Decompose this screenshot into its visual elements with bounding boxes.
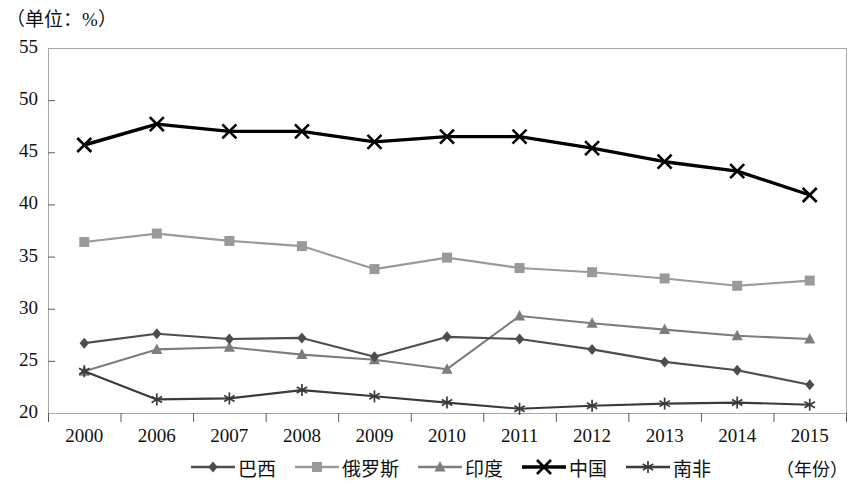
data-point-marker xyxy=(297,332,306,343)
y-axis-label-25: 25 xyxy=(2,349,38,371)
x-axis-label-2015: 2015 xyxy=(775,425,845,447)
legend-marker-triangle-icon xyxy=(417,456,463,478)
data-point-marker xyxy=(660,273,670,283)
legend-label: 中国 xyxy=(569,454,607,481)
legend-item-中国[interactable]: 中国 xyxy=(521,454,607,481)
legend-label: 俄罗斯 xyxy=(342,454,399,481)
x-axis-label-2000: 2000 xyxy=(49,425,119,447)
y-axis-label-55: 55 xyxy=(2,36,38,58)
legend-item-俄罗斯[interactable]: 俄罗斯 xyxy=(294,454,399,481)
y-axis-label-50: 50 xyxy=(2,88,38,110)
data-point-marker xyxy=(587,344,596,355)
legend-item-巴西[interactable]: 巴西 xyxy=(190,454,276,481)
data-point-marker xyxy=(733,365,742,376)
plot-frame xyxy=(49,49,847,414)
series-2 xyxy=(79,229,814,291)
data-point-marker xyxy=(514,310,525,321)
y-axis-label-20: 20 xyxy=(2,401,38,423)
legend-item-南非[interactable]: 南非 xyxy=(625,454,711,481)
legend-label: 印度 xyxy=(465,454,503,481)
legend-item-印度[interactable]: 印度 xyxy=(417,454,503,481)
data-point-marker xyxy=(369,264,379,274)
data-point-marker xyxy=(587,267,597,277)
y-axis-label-30: 30 xyxy=(2,297,38,319)
data-point-marker xyxy=(805,276,815,286)
legend-marker-cross-icon xyxy=(521,456,567,478)
x-axis-label-2007: 2007 xyxy=(194,425,264,447)
y-axis-label-45: 45 xyxy=(2,140,38,162)
x-axis-label-2013: 2013 xyxy=(630,425,700,447)
data-point-marker xyxy=(208,462,217,473)
data-point-marker xyxy=(515,333,524,344)
x-axis-label-2009: 2009 xyxy=(339,425,409,447)
series-1 xyxy=(80,328,815,390)
y-axis-label-35: 35 xyxy=(2,245,38,267)
data-point-marker xyxy=(805,379,814,390)
series-4 xyxy=(77,117,816,202)
data-point-marker xyxy=(515,263,525,273)
data-point-marker xyxy=(152,328,161,339)
legend-marker-star-icon xyxy=(625,456,671,478)
x-axis-label-2014: 2014 xyxy=(702,425,772,447)
data-point-marker xyxy=(225,333,234,344)
line-chart: （单位：%） 2025303540455055 2000200620072008… xyxy=(0,0,856,483)
x-axis-caption: （年份） xyxy=(776,455,848,481)
data-point-marker xyxy=(312,462,322,472)
x-axis-label-2010: 2010 xyxy=(412,425,482,447)
data-point-marker xyxy=(152,229,162,239)
x-axis-label-2008: 2008 xyxy=(267,425,337,447)
data-point-marker xyxy=(442,253,452,263)
legend-label: 巴西 xyxy=(238,454,276,481)
x-axis-label-2012: 2012 xyxy=(557,425,627,447)
x-axis-label-2011: 2011 xyxy=(485,425,555,447)
legend-marker-diamond-icon xyxy=(190,456,236,478)
data-point-marker xyxy=(732,281,742,291)
data-point-marker xyxy=(80,338,89,349)
data-point-marker xyxy=(79,237,89,247)
plot-area xyxy=(0,0,856,483)
y-axis-label-40: 40 xyxy=(2,192,38,214)
x-axis-label-2006: 2006 xyxy=(122,425,192,447)
chart-legend: 巴西俄罗斯印度中国南非 xyxy=(190,452,711,482)
data-point-marker xyxy=(660,356,669,367)
legend-marker-square-icon xyxy=(294,456,340,478)
data-point-marker xyxy=(297,241,307,251)
data-point-marker xyxy=(442,331,451,342)
data-point-marker xyxy=(224,236,234,246)
legend-label: 南非 xyxy=(673,454,711,481)
